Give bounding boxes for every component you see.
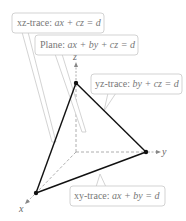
plane-pointer bbox=[55, 54, 86, 132]
xy-trace-pointer bbox=[96, 174, 106, 187]
xy-trace-equation: ax + by = d bbox=[112, 190, 160, 201]
y-arrow-icon bbox=[156, 150, 161, 154]
y-axis-label: y bbox=[161, 146, 167, 157]
z-intercept-point bbox=[74, 81, 78, 85]
callout-plane: Plane: ax + by + cz = d bbox=[35, 35, 138, 55]
svg-text:xz-trace: ax + cz = d: xz-trace: ax + cz = d bbox=[17, 17, 102, 28]
x-axis-dashed bbox=[36, 152, 76, 193]
callout-yz-trace: yz-trace: by + cz = d bbox=[91, 74, 182, 94]
svg-text:xy-trace: ax + by = d: xy-trace: ax + by = d bbox=[74, 190, 160, 201]
plane-equation: ax + by + cz = d bbox=[68, 39, 136, 50]
callout-xz-trace: xz-trace: ax + cz = d bbox=[12, 13, 104, 33]
xy-trace-label: xy-trace: bbox=[74, 190, 110, 201]
yz-trace-pointer bbox=[104, 93, 116, 111]
xz-trace-label: xz-trace: bbox=[17, 17, 52, 28]
plane-label: Plane: bbox=[40, 39, 65, 50]
x-arrow-icon bbox=[25, 199, 30, 204]
x-intercept-point bbox=[34, 191, 38, 195]
svg-text:yz-trace: by + cz = d: yz-trace: by + cz = d bbox=[95, 78, 180, 89]
z-arrow-icon bbox=[74, 62, 78, 67]
x-axis-label: x bbox=[18, 203, 24, 214]
plane-traces-diagram: z y x xz-trace: ax + cz = d Plane: ax + … bbox=[0, 0, 186, 221]
svg-text:Plane: ax + by + cz = d: Plane: ax + by + cz = d bbox=[40, 39, 136, 50]
y-intercept-point bbox=[144, 150, 148, 154]
yz-trace-equation: by + cz = d bbox=[132, 78, 179, 89]
callout-xy-trace: xy-trace: ax + by = d bbox=[70, 186, 165, 206]
yz-trace-label: yz-trace: bbox=[95, 78, 130, 89]
xz-trace-equation: ax + cz = d bbox=[54, 17, 101, 28]
